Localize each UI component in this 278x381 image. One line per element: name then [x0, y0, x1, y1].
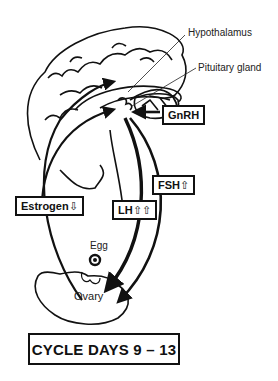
fsh-box: FSH⇧ [152, 175, 195, 195]
fsh-label: FSH [158, 179, 180, 191]
egg-label: Egg [90, 240, 108, 251]
fsh-up-arrow-icon: ⇧ [180, 179, 189, 191]
estrogen-label: Estrogen [21, 200, 69, 212]
hormone-feedback-diagram [0, 0, 278, 381]
lh-double-up-arrow-icon: ⇧⇧ [133, 204, 151, 216]
estrogen-box: Estrogen⇩ [15, 196, 84, 216]
gnrh-box: GnRH [162, 105, 205, 125]
ovary-label: Ovary [74, 290, 103, 302]
estrogen-down-arrow-icon: ⇩ [69, 200, 78, 212]
pituitary-gland-label: Pituitary gland [198, 62, 261, 73]
cycle-days-title: CYCLE DAYS 9 – 13 [28, 333, 180, 365]
lh-box: LH⇧⇧ [112, 200, 157, 220]
cycle-days-text: CYCLE DAYS 9 – 13 [32, 341, 177, 358]
hypothalamus-label: Hypothalamus [188, 27, 252, 38]
lh-label: LH [118, 204, 133, 216]
gnrh-label: GnRH [168, 109, 199, 121]
